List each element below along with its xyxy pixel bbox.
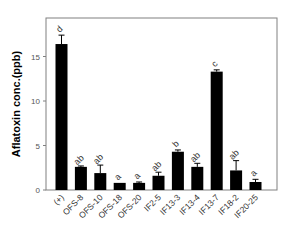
- significance-letter: ab: [188, 150, 202, 164]
- significance-letter: b: [170, 139, 181, 150]
- bar: [114, 183, 126, 190]
- bar: [56, 44, 68, 190]
- significance-letter: ab: [227, 147, 241, 161]
- significance-letter: a: [248, 168, 259, 179]
- y-tick-label: 15: [31, 53, 40, 62]
- bar: [250, 182, 262, 190]
- y-axis: 051015: [31, 53, 46, 196]
- significance-letter: ab: [149, 159, 163, 173]
- bar-chart: 051015 dababaaabbabcaba (+)OFS-8OFS-10OF…: [0, 0, 293, 233]
- chart-canvas: 051015 dababaaabbabcaba (+)OFS-8OFS-10OF…: [0, 0, 293, 233]
- significance-letter: ab: [91, 152, 105, 166]
- x-tick-label: IF13-7: [197, 192, 222, 217]
- significance-letter: a: [112, 171, 123, 182]
- bar: [94, 173, 106, 190]
- significance-letter: a: [132, 171, 143, 182]
- y-tick-label: 0: [36, 186, 41, 195]
- bars: dababaaabbabcaba: [54, 24, 261, 190]
- bar: [172, 152, 184, 190]
- significance-letter: ab: [72, 153, 86, 167]
- bar: [153, 176, 165, 190]
- x-tick-label: (+): [51, 192, 66, 207]
- bar: [75, 167, 87, 190]
- significance-letter: c: [209, 58, 220, 69]
- y-tick-label: 10: [31, 97, 40, 106]
- bar: [133, 183, 145, 190]
- bar: [191, 167, 203, 190]
- bar: [211, 72, 223, 190]
- bar: [230, 170, 242, 190]
- x-tick-label: IF13-3: [158, 192, 183, 217]
- y-tick-label: 5: [36, 142, 41, 151]
- significance-letter: d: [54, 24, 65, 35]
- y-axis-label: Aflatoxin conc.(ppb): [10, 51, 22, 158]
- x-axis-labels: (+)OFS-8OFS-10OFS-18OFS-20IF2-5IF13-3IF1…: [51, 192, 260, 220]
- x-tick-label: IF13-4: [177, 192, 202, 217]
